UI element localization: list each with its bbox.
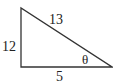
hypotenuse-label: 13: [49, 12, 63, 27]
angle-theta-label: θ: [82, 52, 88, 67]
triangle-shape: [21, 8, 112, 67]
right-triangle-diagram: 12 13 5 θ: [0, 0, 113, 83]
vertical-leg-label: 12: [2, 39, 16, 54]
horizontal-leg-label: 5: [56, 69, 63, 83]
